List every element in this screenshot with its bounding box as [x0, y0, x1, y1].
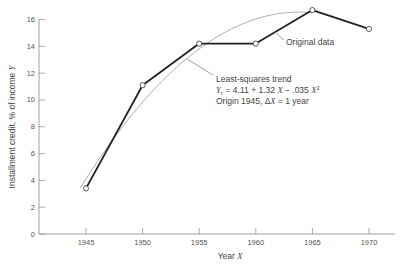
trend-origin-note: Origin 1945, ΔX = 1 year [216, 96, 309, 106]
y-axis-title: Installment credit, % of income Y [7, 64, 17, 188]
x-tick-label: 1960 [247, 238, 264, 247]
axes: 0246810121416194519501955196019651970 [27, 15, 395, 247]
y-tick-label: 4 [31, 176, 35, 185]
data-point-marker [253, 41, 258, 46]
x-tick-label: 1950 [134, 238, 151, 247]
y-tick-label: 14 [27, 42, 35, 51]
y-tick-label: 8 [31, 122, 35, 131]
data-point-marker [197, 41, 202, 46]
original-data-leader-line [275, 32, 284, 40]
data-point-marker [310, 8, 315, 13]
x-axis-title: Year X [218, 251, 244, 261]
y-tick-label: 10 [27, 95, 35, 104]
x-tick-label: 1965 [304, 238, 321, 247]
trend-leader-line [187, 59, 213, 75]
x-tick-label: 1945 [78, 238, 95, 247]
original-data-label: Original data [286, 37, 334, 47]
trend-equation: Yc = 4.11 + 1.32 X − .035 X2 [216, 85, 319, 96]
installment-credit-chart: 0246810121416194519501955196019651970 Or… [0, 0, 401, 267]
x-tick-label: 1970 [361, 238, 378, 247]
y-tick-label: 6 [31, 149, 35, 158]
x-tick-label: 1955 [191, 238, 208, 247]
y-tick-label: 2 [31, 203, 35, 212]
data-point-marker [140, 83, 145, 88]
y-tick-label: 16 [27, 15, 35, 24]
y-tick-label: 0 [31, 230, 35, 239]
data-point-marker [366, 26, 371, 31]
data-point-marker [83, 186, 88, 191]
y-tick-label: 12 [27, 69, 35, 78]
trend-label-line1: Least-squares trend [216, 74, 292, 84]
